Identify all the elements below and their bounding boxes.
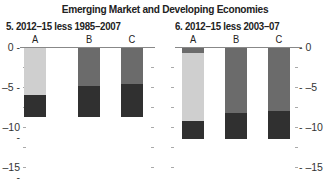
y-tick-label: - –15 bbox=[299, 162, 323, 172]
bar-segment bbox=[24, 47, 46, 95]
tick-mark bbox=[171, 167, 174, 168]
bar-segment bbox=[225, 47, 247, 113]
tick-mark bbox=[151, 87, 154, 88]
category-label: A bbox=[26, 33, 45, 45]
tick-mark bbox=[171, 127, 174, 128]
y-tick-label: –10 - bbox=[0, 122, 20, 142]
bar-segment bbox=[24, 95, 46, 117]
bar-segment bbox=[121, 84, 143, 117]
bar-segment bbox=[121, 47, 143, 84]
bar-segment bbox=[182, 53, 204, 121]
tick-mark bbox=[171, 87, 174, 88]
tick-mark bbox=[151, 67, 154, 68]
bar-segment bbox=[78, 86, 100, 117]
y-tick-label: - 0 bbox=[299, 42, 311, 52]
tick-mark bbox=[295, 127, 298, 128]
y-tick-label: –15 - bbox=[0, 162, 20, 182]
tick-mark bbox=[23, 147, 26, 148]
tick-mark bbox=[23, 167, 26, 168]
y-tick-label: - –10 bbox=[299, 122, 323, 132]
category-label: A bbox=[184, 33, 203, 45]
bar-segment bbox=[268, 111, 290, 139]
tick-mark bbox=[295, 87, 298, 88]
bar-segment bbox=[182, 121, 204, 139]
tick-mark bbox=[171, 67, 174, 68]
y-tick-label: 0 - bbox=[8, 42, 20, 52]
panel-6-title: 6. 2012–15 less 2003–07 bbox=[175, 20, 279, 32]
tick-mark bbox=[23, 127, 26, 128]
bar-segment bbox=[268, 47, 290, 111]
bar-segment bbox=[225, 113, 247, 139]
tick-mark bbox=[151, 127, 154, 128]
category-label: C bbox=[123, 33, 142, 45]
category-label: C bbox=[270, 33, 289, 45]
tick-mark bbox=[295, 167, 298, 168]
figure-title: Emerging Market and Developing Economies bbox=[20, 3, 310, 15]
zero-axis-line bbox=[175, 47, 302, 48]
y-tick-label: - –5 bbox=[299, 82, 317, 92]
tick-mark bbox=[151, 147, 154, 148]
panel-5-title: 5. 2012–15 less 1985–2007 bbox=[6, 20, 121, 32]
zero-axis-line bbox=[20, 47, 155, 48]
bar-segment bbox=[78, 47, 100, 86]
tick-mark bbox=[171, 147, 174, 148]
tick-mark bbox=[295, 107, 298, 108]
y-tick-label: –5 - bbox=[2, 82, 20, 92]
tick-mark bbox=[151, 107, 154, 108]
tick-mark bbox=[171, 107, 174, 108]
tick-mark bbox=[151, 167, 154, 168]
category-label: B bbox=[227, 33, 246, 45]
tick-mark bbox=[295, 67, 298, 68]
tick-mark bbox=[295, 147, 298, 148]
category-label: B bbox=[80, 33, 99, 45]
